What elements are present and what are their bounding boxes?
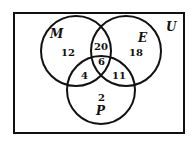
set-p-label: P [95,104,106,118]
venn-diagram: U M E P 12 18 20 6 4 11 2 [0,0,193,145]
universe-label: U [166,20,178,34]
region-e-only: 18 [129,47,143,58]
region-m-and-e: 20 [94,41,108,52]
set-m-label: M [49,27,64,41]
region-p-only: 2 [98,92,105,103]
region-m-e-p: 6 [98,56,105,67]
region-m-only: 12 [61,47,75,58]
region-m-and-p: 4 [81,70,88,81]
set-e-label: E [137,31,148,45]
region-e-and-p: 11 [112,70,126,81]
